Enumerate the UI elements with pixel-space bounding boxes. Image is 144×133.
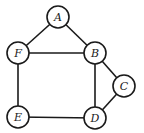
graph-diagram: AFBCED (0, 0, 144, 133)
graph-canvas: AFBCED (0, 0, 144, 133)
node-e: E (7, 106, 29, 128)
node-label: D (90, 112, 100, 125)
nodes-group: AFBCED (7, 6, 135, 129)
node-d: D (84, 107, 106, 129)
node-label: A (53, 11, 62, 24)
edges-group (18, 17, 124, 118)
node-label: B (90, 47, 99, 60)
node-a: A (47, 6, 69, 28)
node-b: B (84, 42, 106, 64)
node-f: F (7, 42, 29, 64)
node-label: C (120, 80, 129, 93)
node-label: F (13, 47, 22, 60)
node-c: C (113, 75, 135, 97)
node-label: E (13, 111, 22, 124)
